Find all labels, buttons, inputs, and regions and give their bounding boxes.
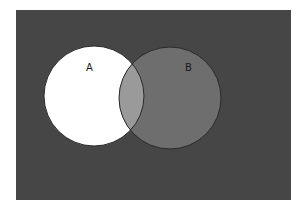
venn-diagram: A B bbox=[0, 0, 307, 211]
venn-diagram-canvas: A B bbox=[0, 0, 307, 211]
set-b-label: B bbox=[185, 62, 192, 73]
set-a-label: A bbox=[86, 62, 93, 73]
